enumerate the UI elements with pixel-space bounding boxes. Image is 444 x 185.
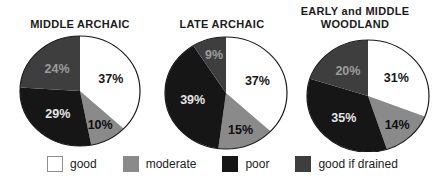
slice-label-poor: 39% xyxy=(180,93,205,107)
slice-label-good: 37% xyxy=(98,72,123,86)
legend-label-good: good xyxy=(70,157,97,171)
slice-label-good: 31% xyxy=(384,71,409,85)
legend-item-moderate: moderate xyxy=(123,156,197,172)
slice-label-moderate: 15% xyxy=(228,123,253,137)
pie-title-early-middle-woodland: EARLY and MIDDLE WOODLAND xyxy=(295,5,415,31)
slice-label-poor: 29% xyxy=(45,107,70,121)
slice-label-good-if-drained: 24% xyxy=(44,62,69,76)
legend-swatch-poor xyxy=(222,156,238,172)
legend-swatch-good-if-drained xyxy=(295,156,311,172)
legend-swatch-moderate xyxy=(123,156,139,172)
slice-label-moderate: 10% xyxy=(88,118,113,132)
legend-item-good-if-drained: good if drained xyxy=(295,156,397,172)
legend-label-poor: poor xyxy=(245,157,269,171)
legend-item-good: good xyxy=(47,156,97,172)
legend-swatch-good xyxy=(47,156,63,172)
slice-label-moderate: 14% xyxy=(385,118,410,132)
legend: good moderate poor good if drained xyxy=(47,156,398,172)
legend-label-good-if-drained: good if drained xyxy=(318,157,397,171)
pie-chart-early-middle-woodland: 31%14%35%20% xyxy=(307,40,429,152)
pie-title-late-archaic: LATE ARCHAIC xyxy=(152,18,292,31)
pie-title-middle-archaic: MIDDLE ARCHAIC xyxy=(10,18,150,31)
pie-chart-middle-archaic: 37%10%29%24% xyxy=(20,36,140,146)
pie-chart-late-archaic: 37%15%39%9% xyxy=(165,37,287,149)
soil-suitability-pie-figure: 37%10%29%24%37%15%39%9%31%14%35%20% MIDD… xyxy=(0,0,444,185)
legend-item-poor: poor xyxy=(222,156,269,172)
slice-label-good-if-drained: 20% xyxy=(335,64,360,78)
slice-label-poor: 35% xyxy=(331,111,356,125)
legend-label-moderate: moderate xyxy=(146,157,197,171)
slice-label-good: 37% xyxy=(245,74,270,88)
slice-label-good-if-drained: 9% xyxy=(205,48,223,62)
